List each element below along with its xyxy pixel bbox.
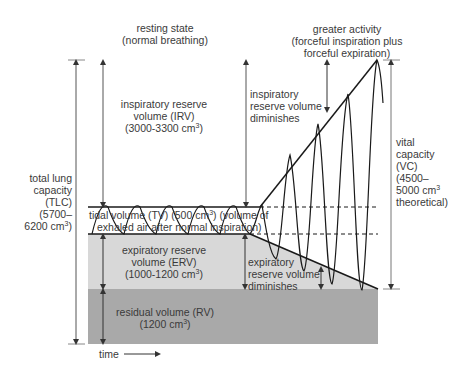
rv-label-line1: residual volume (RV) <box>110 306 220 318</box>
tv-value: tidal volume (TV) (500 cm <box>89 209 209 221</box>
irv-range-close: ) <box>200 122 204 134</box>
tv-label-line2: exhaled air after normal inspiration) <box>89 221 269 233</box>
vc-label-line2: capacity <box>396 148 448 160</box>
tlc-label-line3: (TLC) <box>4 196 72 208</box>
erv-diminishes-label: expiratory reserve volume diminishes <box>248 256 320 292</box>
vc-unit-sup: 3 <box>436 184 440 191</box>
vc-label-line5: 5000 cm3 <box>396 184 448 196</box>
irv-label: inspiratory reserve volume (IRV) (3000-3… <box>112 98 216 134</box>
irv-diminishes-label: inspiratory reserve volume diminishes <box>250 88 322 124</box>
irv-label-line3: (3000-3300 cm3) <box>112 122 216 134</box>
tlc-label-line1: total lung <box>4 172 72 184</box>
tlc-value-close: ) <box>69 220 73 232</box>
activity-heading-line2: (forceful inspiration plus <box>262 35 432 47</box>
erv-label: expiratory reserve volume (ERV) (1000-12… <box>112 244 216 280</box>
vc-label-line3: (VC) <box>396 160 448 172</box>
irv-diminishes-line2: reserve volume <box>250 100 322 112</box>
vc-label-line1: vital <box>396 136 448 148</box>
resting-heading-line1: resting state <box>115 22 215 34</box>
erv-label-line2: volume (ERV) <box>112 256 216 268</box>
irv-diminishes-line3: diminishes <box>250 112 322 124</box>
irv-range: (3000-3300 cm <box>125 122 196 134</box>
tv-desc-start: ) (volume of <box>213 209 268 221</box>
tlc-value: 6200 cm <box>24 220 64 232</box>
erv-label-line3: (1000-1200 cm3) <box>112 268 216 280</box>
erv-diminishes-line3: diminishes <box>248 280 320 292</box>
erv-diminishes-line2: reserve volume <box>248 268 320 280</box>
tlc-label-line2: capacity <box>4 184 72 196</box>
irv-label-line2: volume (IRV) <box>112 110 216 122</box>
lung-volumes-diagram: resting state (normal breathing) greater… <box>0 0 469 376</box>
inspiration-envelope <box>260 60 377 207</box>
vc-value: 5000 cm <box>396 184 436 196</box>
vc-label: vital capacity (VC) (4500– 5000 cm3 theo… <box>396 136 448 208</box>
vc-label-line4: (4500– <box>396 172 448 184</box>
tlc-label-line5: 6200 cm3) <box>4 220 72 232</box>
tv-label: tidal volume (TV) (500 cm3) (volume of e… <box>89 209 269 233</box>
tlc-label: total lung capacity (TLC) (5700– 6200 cm… <box>4 172 72 232</box>
tlc-label-line4: (5700– <box>4 208 72 220</box>
activity-heading-line1: greater activity <box>262 23 432 35</box>
erv-range: (1000-1200 cm <box>125 268 196 280</box>
activity-heading-line3: forceful expiration) <box>262 47 432 59</box>
resting-heading-line2: (normal breathing) <box>115 34 215 46</box>
erv-label-line1: expiratory reserve <box>112 244 216 256</box>
vc-label-line6: theoretical) <box>396 196 448 208</box>
erv-diminishes-line1: expiratory <box>248 256 320 268</box>
rv-value-close: ) <box>187 318 191 330</box>
rv-label: residual volume (RV) (1200 cm3) <box>110 306 220 330</box>
rv-label-line2: (1200 cm3) <box>110 318 220 330</box>
resting-state-heading: resting state (normal breathing) <box>115 22 215 46</box>
erv-range-close: ) <box>200 268 204 280</box>
time-axis-label: time <box>99 348 119 360</box>
irv-diminishes-line1: inspiratory <box>250 88 322 100</box>
irv-label-line1: inspiratory reserve <box>112 98 216 110</box>
greater-activity-heading: greater activity (forceful inspiration p… <box>262 23 432 59</box>
rv-value: (1200 cm <box>139 318 183 330</box>
tv-label-line1: tidal volume (TV) (500 cm3) (volume of <box>89 209 269 221</box>
